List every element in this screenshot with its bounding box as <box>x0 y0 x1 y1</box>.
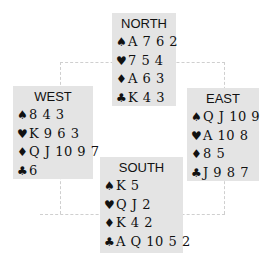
seat-label-east: EAST <box>191 90 259 107</box>
suit-row-diamonds: ♦A 6 3 <box>116 70 176 89</box>
heart-icon: ♥ <box>17 126 29 144</box>
suit-row-clubs: ♣6 <box>17 162 93 181</box>
suit-row-clubs: ♣A Q 10 5 2 <box>104 233 183 252</box>
cards-diamonds: K 4 2 <box>116 215 153 230</box>
hand-east: EAST ♠Q J 10 9 ♥A 10 8 ♦8 5 ♣J 9 8 7 <box>187 88 259 181</box>
suit-row-hearts: ♥Q J 2 <box>104 196 183 215</box>
spade-icon: ♠ <box>104 178 116 196</box>
suit-row-hearts: ♥K 9 6 3 <box>17 125 93 144</box>
seat-label-north: NORTH <box>116 15 176 32</box>
seat-label-west: WEST <box>17 88 93 105</box>
spade-icon: ♠ <box>116 34 128 52</box>
diamond-icon: ♦ <box>191 146 203 164</box>
cards-clubs: J 9 8 7 <box>203 165 249 180</box>
suit-row-spades: ♠Q J 10 9 <box>191 108 259 127</box>
diamond-icon: ♦ <box>17 144 29 162</box>
cards-clubs: 6 <box>29 163 38 178</box>
cards-hearts: 7 5 4 <box>128 53 164 68</box>
suit-row-diamonds: ♦8 5 <box>191 145 259 164</box>
suit-row-diamonds: ♦Q J 10 9 7 <box>17 143 93 162</box>
cards-clubs: A Q 10 5 2 <box>116 234 191 249</box>
heart-icon: ♥ <box>104 197 116 215</box>
suit-row-clubs: ♣J 9 8 7 <box>191 164 259 183</box>
suit-row-hearts: ♥7 5 4 <box>116 52 176 71</box>
suit-row-clubs: ♣K 4 3 <box>116 89 176 108</box>
suit-row-spades: ♠A 7 6 2 <box>116 33 176 52</box>
club-icon: ♣ <box>116 90 128 108</box>
club-icon: ♣ <box>104 234 116 252</box>
cards-spades: Q J 10 9 <box>203 109 260 124</box>
seat-label-south: SOUTH <box>104 159 183 176</box>
club-icon: ♣ <box>191 165 203 183</box>
cards-hearts: A 10 8 <box>203 128 248 143</box>
hand-west: WEST ♠8 4 3 ♥K 9 6 3 ♦Q J 10 9 7 ♣6 <box>13 86 93 179</box>
hand-south: SOUTH ♠K 5 ♥Q J 2 ♦K 4 2 ♣A Q 10 5 2 <box>100 157 183 253</box>
cards-spades: A 7 6 2 <box>128 34 178 49</box>
cards-spades: K 5 <box>116 178 140 193</box>
suit-row-hearts: ♥A 10 8 <box>191 127 259 146</box>
cards-clubs: K 4 3 <box>128 90 165 105</box>
cards-spades: 8 4 3 <box>29 107 65 122</box>
cards-diamonds: Q J 10 9 7 <box>29 144 99 159</box>
suit-row-diamonds: ♦K 4 2 <box>104 214 183 233</box>
club-icon: ♣ <box>17 163 29 181</box>
spade-icon: ♠ <box>191 109 203 127</box>
heart-icon: ♥ <box>191 128 203 146</box>
spade-icon: ♠ <box>17 107 29 125</box>
heart-icon: ♥ <box>116 53 128 71</box>
diamond-icon: ♦ <box>104 215 116 233</box>
cards-diamonds: 8 5 <box>203 146 225 161</box>
diamond-icon: ♦ <box>116 71 128 89</box>
suit-row-spades: ♠8 4 3 <box>17 106 93 125</box>
cards-hearts: Q J 2 <box>116 197 151 212</box>
suit-row-spades: ♠K 5 <box>104 177 183 196</box>
hand-north: NORTH ♠A 7 6 2 ♥7 5 4 ♦A 6 3 ♣K 4 3 <box>112 13 176 106</box>
cards-diamonds: A 6 3 <box>128 71 165 86</box>
cards-hearts: K 9 6 3 <box>29 126 79 141</box>
